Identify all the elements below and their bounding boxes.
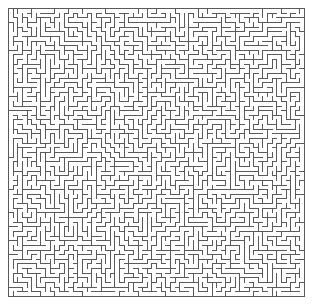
maze-canvas <box>0 0 313 304</box>
maze-figure <box>0 0 313 304</box>
